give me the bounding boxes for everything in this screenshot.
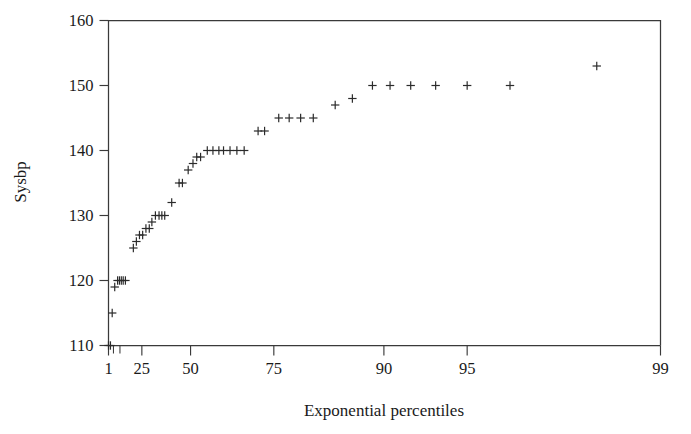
- data-point: [260, 127, 268, 135]
- x-tick-label: 90: [376, 359, 393, 378]
- x-tick-label: 95: [459, 359, 476, 378]
- data-point: [309, 114, 317, 122]
- data-point: [233, 146, 241, 154]
- y-axis-title: Sysbp: [11, 161, 30, 203]
- data-point: [189, 159, 197, 167]
- x-tick-label: 25: [134, 359, 151, 378]
- data-point: [506, 81, 514, 89]
- plot-frame: [109, 21, 661, 346]
- data-point: [386, 81, 394, 89]
- data-point-series: [104, 62, 601, 350]
- data-point: [368, 81, 376, 89]
- data-point: [196, 153, 204, 161]
- data-point: [184, 166, 192, 174]
- data-point: [463, 81, 471, 89]
- data-point: [331, 101, 339, 109]
- data-point: [167, 198, 175, 206]
- figure-container: 110120130140150160 1255075909599 Sysbp E…: [0, 0, 691, 434]
- y-tick-label: 140: [69, 141, 94, 160]
- x-tick-label: 50: [182, 359, 199, 378]
- scatter-plot: 110120130140150160 1255075909599 Sysbp E…: [0, 0, 691, 434]
- x-tick-label: 1: [104, 359, 112, 378]
- y-tick-label: 120: [69, 271, 94, 290]
- y-tick-label: 150: [69, 76, 94, 95]
- x-axis-ticks: 1255075909599: [104, 346, 668, 378]
- x-tick-label: 99: [652, 359, 669, 378]
- data-point: [285, 114, 293, 122]
- y-tick-label: 160: [69, 11, 94, 30]
- y-tick-label: 110: [69, 336, 93, 355]
- data-point: [275, 114, 283, 122]
- data-point: [593, 62, 601, 70]
- data-point: [240, 146, 248, 154]
- y-axis-ticks: 110120130140150160: [69, 11, 109, 355]
- data-point: [108, 309, 116, 317]
- data-point: [407, 81, 415, 89]
- x-axis-title: Exponential percentiles: [304, 401, 464, 420]
- y-tick-label: 130: [69, 206, 94, 225]
- x-tick-label: 75: [266, 359, 283, 378]
- data-point: [121, 276, 129, 284]
- data-point: [348, 94, 356, 102]
- data-point: [296, 114, 304, 122]
- data-point: [431, 81, 439, 89]
